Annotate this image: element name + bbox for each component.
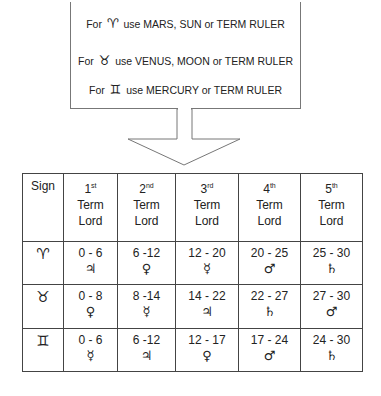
degree-range: 6 -12 [118, 329, 175, 348]
header-term: Term [133, 198, 160, 212]
mars-icon: ♂ [239, 261, 300, 277]
header-term: Term [77, 198, 104, 212]
degree-range: 0 - 8 [64, 285, 117, 304]
term-cell: 6 -12♃ [118, 329, 176, 372]
term-cell: 22 - 27♄ [239, 285, 301, 329]
mercury-icon: ☿ [118, 304, 175, 320]
term-cell: 24 - 30♄ [301, 329, 363, 372]
degree-range: 8 -14 [118, 285, 175, 304]
degree-range: 0 - 6 [64, 242, 117, 261]
degree-range: 20 - 25 [239, 242, 300, 261]
jupiter-icon: ♃ [64, 261, 117, 277]
ordinal-suffix: rd [207, 182, 213, 189]
ordinal-number: 4 [263, 182, 270, 196]
ordinal-suffix: st [91, 182, 96, 189]
ordinal-suffix: th [270, 182, 276, 189]
term-cell: 27 - 30♂ [301, 285, 363, 329]
term-cell: 0 - 6♃ [64, 242, 118, 285]
mercury-icon: ☿ [176, 261, 238, 277]
degree-range: 14 - 22 [176, 285, 238, 304]
header-lord: Lord [195, 214, 219, 228]
term-cell: 8 -14☿ [118, 285, 176, 329]
term-cell: 12 - 20☿ [176, 242, 239, 285]
ordinal-number: 2 [139, 182, 146, 196]
header-term: Term [256, 198, 283, 212]
term-cell: 0 - 8♀ [64, 285, 118, 329]
ordinal-suffix: nd [146, 182, 154, 189]
degree-range: 12 - 20 [176, 242, 238, 261]
down-arrow-icon [0, 0, 381, 180]
header-lord: Lord [257, 214, 281, 228]
degree-range: 0 - 6 [64, 329, 117, 348]
saturn-icon: ♄ [301, 348, 362, 364]
header-term-3: 3rdTermLord [176, 174, 239, 242]
degree-range: 6 -12 [118, 242, 175, 261]
jupiter-icon: ♃ [176, 304, 238, 320]
degree-range: 24 - 30 [301, 329, 362, 348]
header-label: Sign [31, 179, 55, 193]
header-term: Term [318, 198, 345, 212]
header-lord: Lord [134, 214, 158, 228]
header-sign: Sign [23, 174, 64, 242]
term-cell: 14 - 22♃ [176, 285, 239, 329]
degree-range: 27 - 30 [301, 285, 362, 304]
header-term: Term [194, 198, 221, 212]
gemini-icon: ♊ [23, 329, 64, 372]
header-lord: Lord [319, 214, 343, 228]
degree-range: 17 - 24 [239, 329, 300, 348]
degree-range: 12 - 17 [176, 329, 238, 348]
term-cell: 25 - 30♄ [301, 242, 363, 285]
ordinal-number: 5 [325, 182, 332, 196]
venus-icon: ♀ [64, 304, 117, 320]
saturn-icon: ♄ [239, 304, 300, 320]
table-header-row: Sign 1stTermLord 2ndTermLord 3rdTermLord… [23, 174, 363, 242]
jupiter-icon: ♃ [118, 348, 175, 364]
venus-icon: ♀ [118, 261, 175, 277]
term-cell: 20 - 25♂ [239, 242, 301, 285]
header-term-4: 4thTermLord [239, 174, 301, 242]
table-row-gemini: ♊ 0 - 6☿ 6 -12♃ 12 - 17♀ 17 - 24♂ 24 - 3… [23, 329, 363, 372]
saturn-icon: ♄ [301, 261, 362, 277]
header-term-2: 2ndTermLord [118, 174, 176, 242]
mars-icon: ♂ [239, 348, 300, 364]
venus-icon: ♀ [176, 348, 238, 364]
ordinal-suffix: th [332, 182, 338, 189]
header-lord: Lord [78, 214, 102, 228]
term-lords-table: Sign 1stTermLord 2ndTermLord 3rdTermLord… [22, 173, 363, 372]
term-cell: 6 -12♀ [118, 242, 176, 285]
aries-icon: ♈ [23, 242, 64, 285]
table-row-taurus: ♉ 0 - 8♀ 8 -14☿ 14 - 22♃ 22 - 27♄ 27 - 3… [23, 285, 363, 329]
header-term-5: 5thTermLord [301, 174, 363, 242]
degree-range: 25 - 30 [301, 242, 362, 261]
degree-range: 22 - 27 [239, 285, 300, 304]
term-cell: 17 - 24♂ [239, 329, 301, 372]
taurus-icon: ♉ [23, 285, 64, 329]
term-cell: 0 - 6☿ [64, 329, 118, 372]
header-term-1: 1stTermLord [64, 174, 118, 242]
term-cell: 12 - 17♀ [176, 329, 239, 372]
table-row-aries: ♈ 0 - 6♃ 6 -12♀ 12 - 20☿ 20 - 25♂ 25 - 3… [23, 242, 363, 285]
mercury-icon: ☿ [64, 348, 117, 364]
mars-icon: ♂ [301, 304, 362, 320]
